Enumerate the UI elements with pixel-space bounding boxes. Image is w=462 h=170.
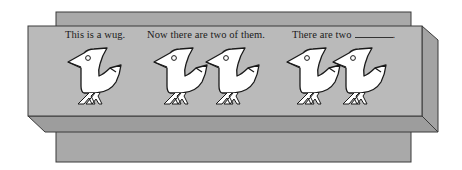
caption-text: This is a wug. <box>65 29 125 40</box>
wug-test-board <box>0 0 462 170</box>
front-block-bottom-face <box>28 116 438 132</box>
caption-text: There are two <box>292 29 352 40</box>
caption-panel-2: Now there are two of them. <box>147 29 265 40</box>
fill-in-blank <box>355 29 393 38</box>
caption-text: Now there are two of them. <box>147 29 265 40</box>
front-block-side-face <box>422 26 438 132</box>
caption-panel-1: This is a wug. <box>65 29 125 40</box>
caption-period: . <box>393 29 396 40</box>
caption-panel-3: There are two. <box>292 29 395 40</box>
